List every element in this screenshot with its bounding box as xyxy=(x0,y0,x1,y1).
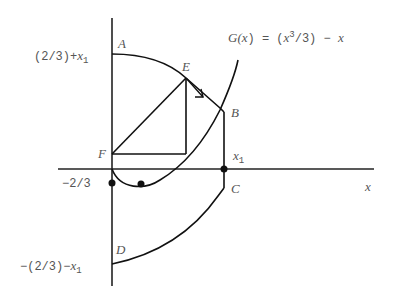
lower-arc xyxy=(112,188,224,264)
diagonal-fe xyxy=(112,78,186,154)
function-label: G(x) = (x3/3) − x xyxy=(228,30,344,46)
label-bottom-value: −(2/3)−x1 xyxy=(20,258,82,276)
label-c: C xyxy=(231,181,240,196)
label-x1: x1 xyxy=(232,148,244,166)
axis-label-x: x xyxy=(364,179,371,194)
dot-curve-min xyxy=(138,181,145,188)
dot-x1 xyxy=(221,166,228,173)
dot-neg-two-thirds xyxy=(109,180,116,187)
label-neg-two-thirds: −2/3 xyxy=(62,177,91,191)
label-top-value: (2/3)+x1 xyxy=(34,48,88,66)
upper-arc xyxy=(112,54,224,112)
arrow-shaft xyxy=(186,78,203,97)
label-f: F xyxy=(97,146,107,161)
phase-plane-diagram: G(x) = (x3/3) − x A E B F C D x (2/3)+x1… xyxy=(0,0,394,299)
label-e: E xyxy=(181,59,190,74)
label-b: B xyxy=(231,105,239,120)
label-a: A xyxy=(117,36,126,51)
label-d: D xyxy=(115,242,126,257)
cubic-curve xyxy=(112,60,238,186)
